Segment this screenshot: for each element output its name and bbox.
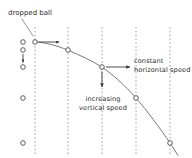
dropped-ball-label: dropped ball <box>8 9 52 17</box>
constant-horizontal-speed-label-line2: horizontal speed <box>134 66 191 74</box>
increasing-vertical-speed-label-line1: increasing <box>86 95 121 103</box>
projectile-position-2 <box>66 48 71 53</box>
increasing-vertical-speed-label-line2: vertical speed <box>79 104 127 112</box>
diagram-canvas: dropped ball constant horizontal speed i… <box>0 0 192 158</box>
projectile-position-1 <box>33 40 38 45</box>
projectile-position-3 <box>100 65 105 70</box>
dropped-ball-position-2 <box>21 48 26 53</box>
projectile-motion-diagram: dropped ball constant horizontal speed i… <box>0 0 192 158</box>
dropped-ball-position-1 <box>21 40 26 45</box>
dropped-ball-position-4 <box>21 96 26 101</box>
projectile-series <box>33 40 173 146</box>
dropped-ball-position-5 <box>21 141 26 146</box>
dropped-ball-leader-line <box>22 19 33 36</box>
projectile-position-5 <box>168 141 173 146</box>
projectile-position-4 <box>134 96 139 101</box>
constant-horizontal-speed-label-line1: constant <box>134 57 164 65</box>
dropped-ball-position-3 <box>21 65 26 70</box>
